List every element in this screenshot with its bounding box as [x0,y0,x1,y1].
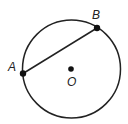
chord-ab [23,28,97,74]
point-a [20,70,26,76]
label-a: A [7,60,16,74]
diagram-canvas: A B O [0,0,128,124]
point-b [94,25,100,31]
label-b: B [92,8,100,22]
point-o-center [68,66,74,72]
label-o: O [67,75,76,89]
circle-diagram: A B O [0,0,128,124]
